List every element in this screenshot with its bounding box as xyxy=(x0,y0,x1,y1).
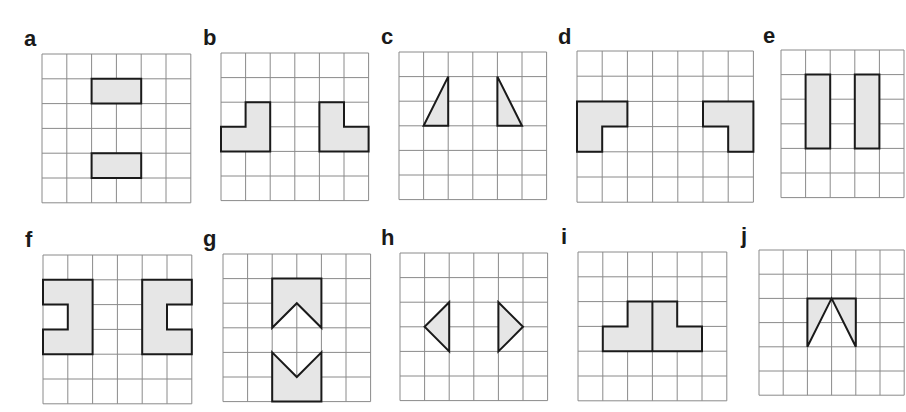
grid-panel-g xyxy=(222,253,372,403)
panel-label-i: i xyxy=(561,226,567,248)
shape-h-image xyxy=(498,302,523,351)
grid-panel-f xyxy=(42,254,193,405)
grid-panel-d xyxy=(576,50,754,203)
shape-d-image xyxy=(703,101,753,151)
grid-panel-b xyxy=(220,52,370,202)
panel-label-e: e xyxy=(763,25,775,47)
shape-f-original xyxy=(43,280,93,354)
panel-label-j: j xyxy=(741,225,747,247)
shape-a-image xyxy=(92,153,142,178)
grid-panel-e xyxy=(780,49,905,199)
shape-e-image xyxy=(855,75,880,149)
panel-label-c: c xyxy=(381,26,393,48)
shape-e-original xyxy=(806,75,831,149)
shape-b-original xyxy=(221,102,270,151)
panel-label-f: f xyxy=(25,229,32,251)
grid-panel-j xyxy=(758,249,905,396)
panel-label-g: g xyxy=(203,228,216,250)
panel-label-a: a xyxy=(24,28,36,50)
grid-panel-a xyxy=(41,53,192,204)
shape-h-original xyxy=(425,302,450,351)
shape-f-image xyxy=(142,280,192,354)
grid-panel-c xyxy=(398,51,548,201)
grid-panel-h xyxy=(399,252,549,402)
panel-label-b: b xyxy=(203,27,216,49)
shape-b-image xyxy=(319,102,368,151)
panel-label-d: d xyxy=(558,26,571,48)
shape-d-original xyxy=(577,101,627,151)
shape-a-original xyxy=(92,79,142,104)
grid-panel-i xyxy=(577,251,728,402)
panel-label-h: h xyxy=(381,227,394,249)
